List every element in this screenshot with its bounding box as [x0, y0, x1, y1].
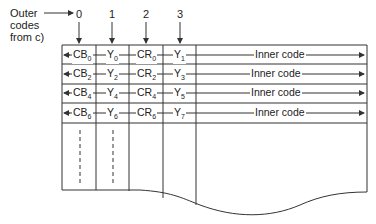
cell-y3: Y3 — [173, 68, 186, 83]
cell-cb4: CB4 — [72, 87, 93, 102]
inner-code-label: Inner code — [250, 87, 302, 98]
cell-y7: Y7 — [173, 107, 186, 122]
cell-y0: Y0 — [106, 49, 119, 64]
outer-label-line1: Outer — [10, 7, 44, 19]
cell-cr4: CR4 — [136, 87, 157, 102]
outer-label-line2: codes — [10, 19, 44, 31]
cell-cr6: CR6 — [136, 107, 157, 122]
inner-code-label: Inner code — [254, 49, 306, 60]
cell-y4: Y4 — [106, 87, 119, 102]
cell-y2: Y2 — [106, 68, 119, 83]
inner-code-label: Inner code — [254, 107, 306, 118]
cell-cb6: CB6 — [72, 107, 93, 122]
cell-cb2: CB2 — [72, 68, 93, 83]
cell-cr2: CR2 — [136, 68, 157, 83]
cell-cr0: CR0 — [136, 49, 157, 64]
column-index-1: 1 — [109, 8, 115, 20]
cell-y5: Y5 — [173, 87, 186, 102]
diagram-lines — [0, 0, 376, 224]
cell-y6: Y6 — [106, 107, 119, 122]
column-index-0: 0 — [76, 8, 82, 20]
inner-code-label: Inner code — [250, 68, 302, 79]
cell-y1: Y1 — [173, 49, 186, 64]
outer-codes-label: Outer codes from c) — [10, 7, 44, 43]
cell-cb0: CB0 — [72, 49, 93, 64]
column-index-2: 2 — [143, 8, 149, 20]
outer-label-line3: from c) — [10, 31, 44, 43]
column-index-3: 3 — [177, 8, 183, 20]
